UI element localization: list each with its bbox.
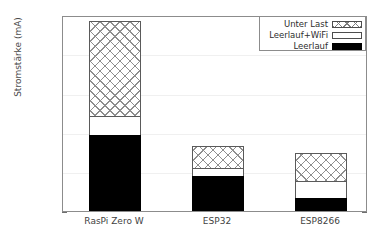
bar-chart: Stromstärke (mA) 250 200 150 100 50 0 (0, 0, 390, 239)
legend-label-leerlauf: Leerlauf (294, 41, 329, 51)
y-tick-mark-right-0 (362, 212, 367, 213)
bar-segment-leerlauf (295, 198, 347, 211)
legend-label-leerlauf-wifi: Leerlauf+WiFi (269, 30, 328, 40)
legend-item-leerlauf-wifi: Leerlauf+WiFi (263, 30, 362, 40)
legend-item-unter-last: Unter Last (263, 19, 362, 29)
legend: Unter Last Leerlauf+WiFi Leerlauf (259, 16, 366, 51)
crosshatch-swatch-icon (332, 21, 362, 28)
legend-item-leerlauf: Leerlauf (263, 41, 362, 51)
bar-segment-leerlauf (192, 176, 244, 211)
y-tick-mark-0 (62, 212, 67, 213)
legend-label-unter-last: Unter Last (284, 19, 328, 29)
x-tick-label-esp8266: ESP8266 (260, 216, 380, 226)
x-tick-label-raspi-zero-w: RasPi Zero W (54, 216, 174, 226)
open-swatch-icon (332, 32, 362, 39)
solid-swatch-icon (332, 43, 362, 50)
x-tick-label-esp32: ESP32 (157, 216, 277, 226)
bar-segment-leerlauf (89, 135, 141, 211)
